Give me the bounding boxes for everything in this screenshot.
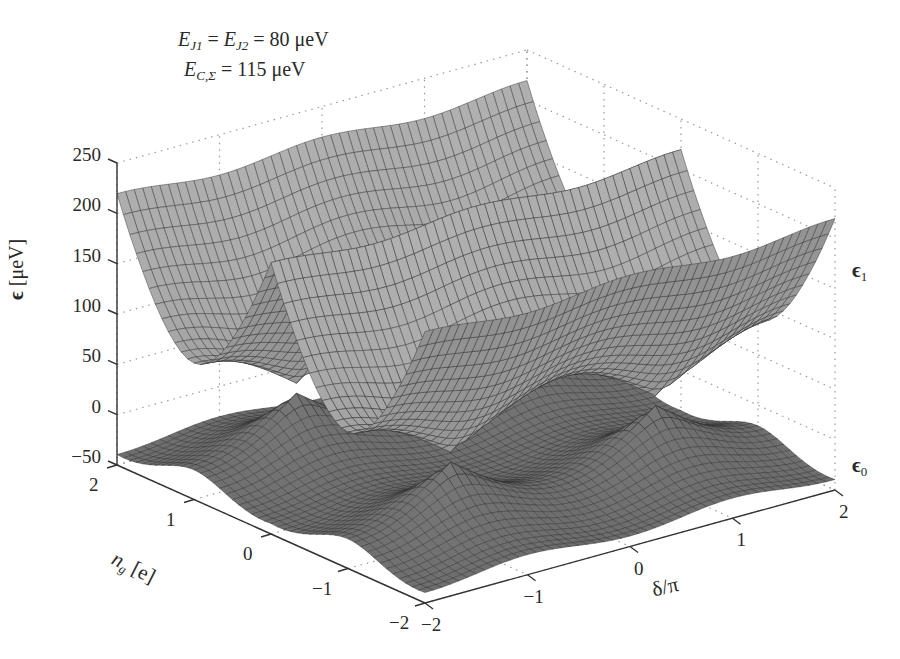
band-label-epsilon1: ϵ1 (852, 260, 867, 283)
delta-axis-label: δ/π (650, 574, 680, 600)
z-tick-200: 200 (41, 195, 101, 214)
band-label-epsilon0: ϵ0 (852, 455, 867, 478)
z-unit: [μeV] (5, 239, 27, 286)
z-tick-100: 100 (41, 296, 101, 315)
z-axis-label: ϵ [μeV] (6, 239, 27, 300)
annotation-josephson-energies: EJ1 = EJ2 = 80 μeV (178, 28, 329, 54)
annotation-charging-energy: EC,Σ = 115 μeV (184, 58, 305, 84)
z-tick--50: −50 (41, 447, 101, 466)
ng-tick-0: 0 (243, 544, 253, 563)
delta-tick--2: −2 (421, 615, 441, 634)
epsilon1-symbol: ϵ (852, 258, 861, 282)
ej2-symbol: E (224, 28, 236, 50)
ej1-subscript: J1 (190, 38, 202, 53)
equals-sign: = (203, 28, 224, 50)
ec-value: = 115 μeV (216, 58, 306, 80)
delta-tick-2: 2 (839, 502, 849, 521)
ej1-symbol: E (178, 28, 190, 50)
z-tick-0: 0 (41, 397, 101, 416)
epsilon1-subscript: 1 (861, 269, 868, 284)
delta-tick-1: 1 (737, 530, 747, 549)
epsilon0-subscript: 0 (861, 464, 868, 479)
ej2-subscript: J2 (236, 38, 248, 53)
ng-tick-1: 1 (166, 510, 176, 529)
ec-subscript: C,Σ (196, 68, 216, 83)
ng-tick-2: 2 (89, 475, 99, 494)
z-tick-50: 50 (41, 346, 101, 365)
epsilon-symbol: ϵ (4, 291, 28, 300)
delta-tick-0: 0 (634, 559, 644, 578)
epsilon0-symbol: ϵ (852, 453, 861, 477)
ng-tick--1: −1 (312, 579, 332, 598)
ej-value: = 80 μeV (248, 28, 328, 50)
z-tick-150: 150 (41, 246, 101, 265)
ec-symbol: E (184, 58, 196, 80)
z-tick-250: 250 (41, 145, 101, 164)
ng-tick--2: −2 (389, 613, 409, 632)
delta-tick--1: −1 (524, 587, 544, 606)
